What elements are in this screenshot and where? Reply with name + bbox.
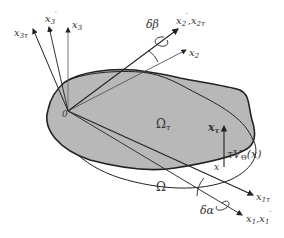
x3tau-axis [33,29,68,111]
omega-label: Ω [156,180,166,194]
x1tau-label: x1τ [256,191,270,204]
x-point-label: x [214,162,219,172]
x1-x1prime-label: x1,x1′ [246,210,271,226]
delta-alpha-label: δα [200,204,215,217]
delta-beta-label: δβ [146,18,159,31]
x3tau-label: x3τ [14,27,28,40]
x3-label: x3 [72,19,83,32]
x2-label: x2 [189,47,200,60]
domain-diagram: 0 x3 x3′ x3τ x2 x2′,x2τ δβ Ωτ Ω xτ x τVΘ… [0,0,284,238]
origin-label: 0 [62,109,68,119]
delta-beta-arc [148,50,158,62]
x3prime-label: x3′ [45,10,57,26]
x2prime-x2tau-label: x2′,x2τ [176,12,205,28]
